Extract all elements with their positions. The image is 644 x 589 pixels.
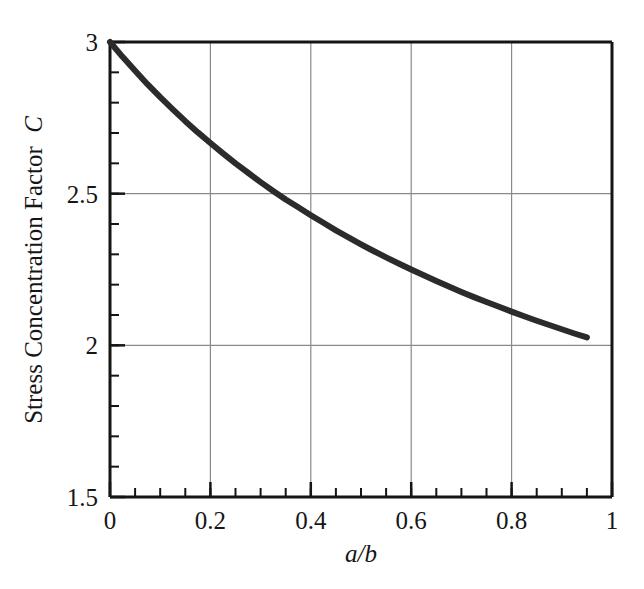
- x-tick-label: 0.2: [195, 507, 226, 534]
- y-axis-title-main: Stress Concentration Factor: [20, 145, 47, 423]
- x-tick-label: 0.6: [396, 507, 427, 534]
- y-axis-title-text: Stress Concentration Factor C: [20, 116, 47, 424]
- x-axis-title-text: a/b: [345, 540, 377, 567]
- chart-figure: 00.20.40.60.81 1.522.53 a/b Stress Conce…: [0, 0, 644, 589]
- y-axis-title-symbol: C: [20, 116, 47, 133]
- x-tick-label: 0.4: [295, 507, 327, 534]
- x-axis-tick-labels: 00.20.40.60.81: [104, 507, 619, 534]
- x-tick-label: 1: [606, 507, 619, 534]
- plot-area-background: [110, 42, 612, 497]
- y-axis-title: Stress Concentration Factor C: [20, 116, 47, 424]
- y-axis-tick-labels: 1.522.53: [67, 29, 98, 511]
- y-tick-label: 2.5: [67, 181, 98, 208]
- x-axis-title: a/b: [345, 540, 377, 567]
- y-tick-label: 3: [86, 29, 99, 56]
- stress-concentration-chart: 00.20.40.60.81 1.522.53 a/b Stress Conce…: [0, 0, 644, 589]
- y-tick-label: 1.5: [67, 484, 98, 511]
- x-tick-label: 0: [104, 507, 117, 534]
- x-tick-label: 0.8: [496, 507, 527, 534]
- y-tick-label: 2: [86, 332, 99, 359]
